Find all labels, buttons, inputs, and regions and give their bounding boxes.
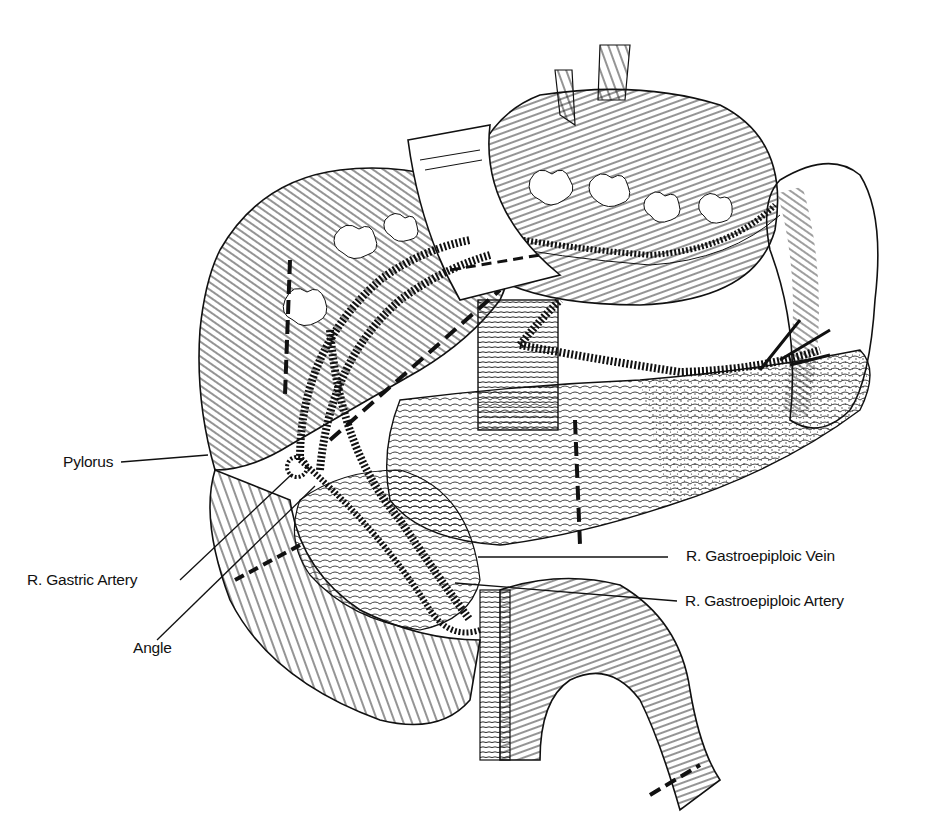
jejunum: [480, 579, 720, 810]
label-r-gastric-artery: R. Gastric Artery: [27, 571, 137, 589]
label-r-gastroepiploic-vein: R. Gastroepiploic Vein: [686, 547, 835, 565]
label-angle: Angle: [133, 639, 172, 657]
label-r-gastroepiploic-artery: R. Gastroepiploic Artery: [685, 592, 844, 610]
illustration-drawing: [0, 0, 927, 838]
splenic-artery: [520, 300, 830, 372]
pylorus-leader-line: [121, 455, 208, 462]
anatomical-illustration: Pylorus R. Gastric Artery Angle R. Gastr…: [0, 0, 927, 838]
label-pylorus: Pylorus: [63, 453, 113, 471]
duodenum: [210, 470, 480, 725]
